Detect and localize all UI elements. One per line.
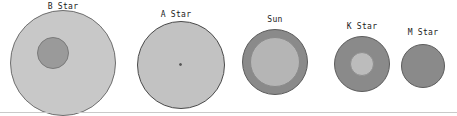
star-core-sun <box>250 37 300 87</box>
star-disk-m-star <box>401 44 445 88</box>
star-comparison-figure: B Star A Star Sun K Star M Star <box>0 0 457 116</box>
star-label-m-star: M Star <box>401 28 445 38</box>
star-label-k-star: K Star <box>340 22 384 32</box>
star-label-sun: Sun <box>260 15 290 25</box>
star-core-k-star <box>350 52 374 76</box>
star-core-a-star <box>179 63 182 66</box>
figure-baseline <box>0 112 457 113</box>
star-label-a-star: A Star <box>154 10 198 20</box>
star-core-b-star <box>37 37 69 69</box>
